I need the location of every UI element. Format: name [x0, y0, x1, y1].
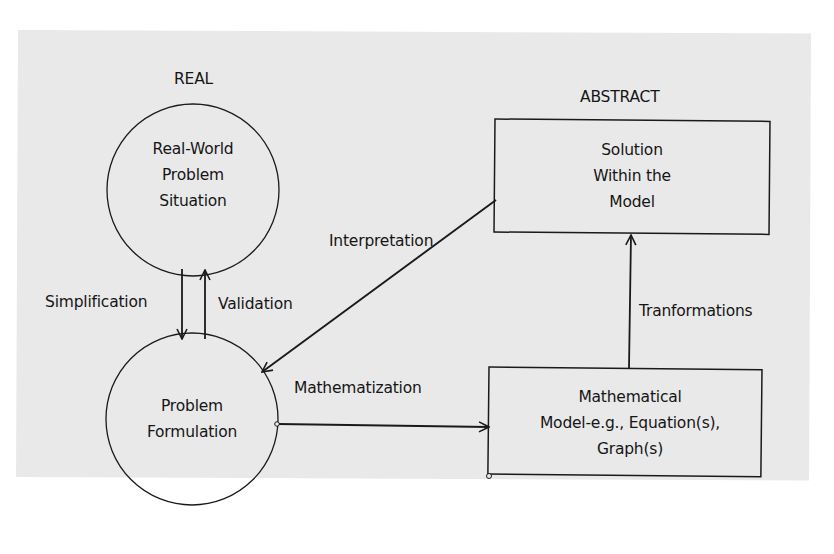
- interpretation-arrow: [262, 200, 496, 372]
- interpretation-label: Interpretation: [329, 234, 433, 250]
- heading-abstract: ABSTRACT: [580, 90, 659, 106]
- solution-label: Solution Within the Model: [552, 137, 712, 215]
- connector-dot: [487, 474, 492, 479]
- math-model-line-1: Mathematical: [515, 384, 745, 410]
- solution-line-1: Solution: [552, 137, 712, 163]
- real-world-line-1: Real-World: [113, 136, 273, 162]
- math-model-line-3: Graph(s): [515, 436, 745, 462]
- simplification-label: Simplification: [45, 295, 147, 311]
- problem-formulation-label: Problem Formulation: [112, 393, 272, 445]
- real-world-line-2: Problem: [113, 162, 273, 188]
- solution-line-2: Within the: [552, 163, 712, 189]
- real-world-label: Real-World Problem Situation: [113, 136, 273, 214]
- mathematization-origin-dot: [275, 422, 280, 427]
- validation-label: Validation: [218, 297, 293, 313]
- modeling-cycle-diagram: [0, 0, 834, 554]
- mathematization-label: Mathematization: [294, 381, 422, 397]
- real-world-line-3: Situation: [113, 188, 273, 214]
- mathematization-arrow: [278, 424, 489, 427]
- solution-line-3: Model: [552, 189, 712, 215]
- math-model-label: Mathematical Model-e.g., Equation(s), Gr…: [515, 384, 745, 462]
- heading-real: REAL: [174, 72, 213, 88]
- transformations-arrow: [629, 235, 631, 368]
- transformations-label: Tranformations: [639, 304, 753, 320]
- problem-formulation-line-2: Formulation: [112, 419, 272, 445]
- math-model-line-2: Model-e.g., Equation(s),: [515, 410, 745, 436]
- problem-formulation-line-1: Problem: [112, 393, 272, 419]
